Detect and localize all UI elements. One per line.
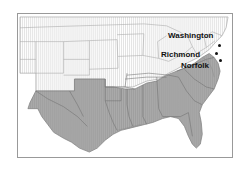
- city-label-richmond: Richmond: [161, 50, 200, 59]
- city-dot-washington: [218, 44, 221, 47]
- city-label-norfolk: Norfolk: [181, 61, 209, 70]
- city-dot-richmond: [215, 52, 218, 55]
- map-frame: Washington Richmond Norfolk: [17, 13, 233, 158]
- city-dot-norfolk: [219, 59, 222, 62]
- map-figure: Washington Richmond Norfolk: [0, 0, 245, 170]
- city-label-washington: Washington: [168, 31, 213, 40]
